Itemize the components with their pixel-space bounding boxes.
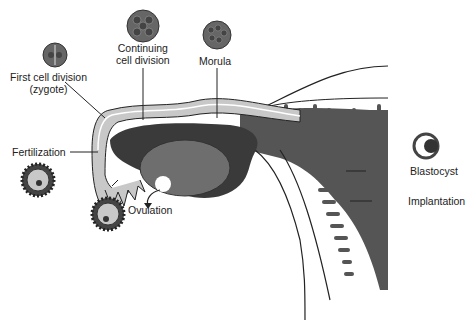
uterus-outline (262, 66, 388, 108)
label-first-cell-division: First cell division (zygote) (10, 71, 87, 95)
label-implantation: Implantation (408, 195, 465, 207)
label-continuing-cell-division: Continuing cell division (116, 42, 170, 66)
uterine-wall (240, 104, 388, 290)
ruptured-follicle (155, 176, 171, 192)
zygote-icon (43, 43, 67, 67)
cell-division-icon (127, 10, 159, 42)
label-fertilization: Fertilization (12, 146, 66, 158)
label-line: cell division (116, 54, 170, 66)
fertilized-egg-icon (22, 164, 54, 196)
label-line: (zygote) (10, 83, 87, 95)
label-line: First cell division (10, 71, 87, 83)
ovulation-arrow (148, 190, 161, 205)
label-morula: Morula (199, 55, 231, 67)
label-line: Continuing (116, 42, 170, 54)
morula-icon (203, 21, 231, 49)
blastocyst-icon (414, 134, 438, 158)
ovulated-egg-icon (92, 198, 124, 230)
label-blastocyst: Blastocyst (410, 165, 458, 177)
diagram-canvas (0, 0, 474, 332)
ovary (140, 140, 230, 196)
label-ovulation: Ovulation (128, 204, 172, 216)
